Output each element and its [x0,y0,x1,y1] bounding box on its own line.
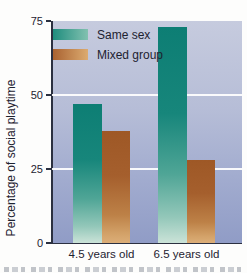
y-tick-0 [46,242,51,244]
legend-item-mixed-group: Mixed group [53,49,163,60]
y-tick-50 [46,94,51,96]
y-tick-75 [46,20,51,22]
x-category-label-4-5-years-old: 4.5 years old [69,248,135,260]
y-tick-label-0: 0 [14,238,43,249]
bar-same-sex-4-5-years-old [73,104,102,243]
gridline-50 [52,94,242,96]
plot-area: Same sexMixed group [52,21,242,243]
y-tick-25 [46,168,51,170]
x-category-label-6-5-years-old: 6.5 years old [154,248,220,260]
cropped-caption-fragment [4,267,243,272]
y-tick-label-25: 25 [14,164,43,175]
bar-mixed-group-4-5-years-old [102,131,131,243]
legend-swatch-mixed-group [53,49,88,60]
legend: Same sexMixed group [53,29,163,69]
bar-mixed-group-6-5-years-old [187,160,216,243]
y-axis-title: Percentage of social playtime [4,47,18,269]
figure: Same sexMixed group Percentage of social… [0,0,247,273]
legend-label-same-sex: Same sex [97,28,150,42]
legend-label-mixed-group: Mixed group [97,48,163,62]
y-tick-label-75: 75 [14,16,43,27]
y-tick-label-50: 50 [14,90,43,101]
legend-swatch-same-sex [53,29,88,40]
legend-item-same-sex: Same sex [53,29,163,40]
